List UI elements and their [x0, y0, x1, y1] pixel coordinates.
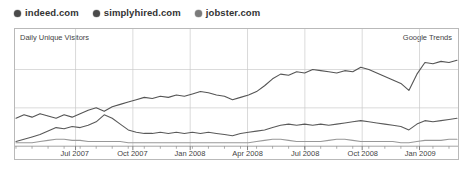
legend-item-simplyhired[interactable]: simplyhired.com: [93, 8, 181, 18]
chart-legend: indeed.com simplyhired.com jobster.com: [14, 5, 260, 21]
legend-label-simplyhired: simplyhired.com: [104, 8, 181, 18]
legend-label-indeed: indeed.com: [25, 8, 79, 18]
filled-circle-marker-icon: [195, 10, 202, 17]
x-axis-tick-label: Jan 2008: [175, 150, 206, 158]
plot-area: [15, 29, 458, 159]
legend-item-indeed[interactable]: indeed.com: [14, 8, 79, 18]
x-axis-tick-label: Jan 2009: [405, 150, 436, 158]
filled-circle-marker-icon: [93, 10, 100, 17]
chart-screenshot: indeed.com simplyhired.com jobster.com D…: [0, 0, 474, 178]
x-axis-tick-label: Oct 2007: [117, 150, 147, 158]
legend-label-jobster: jobster.com: [206, 8, 260, 18]
chart-svg: [15, 29, 458, 159]
x-axis-labels: Jul 2007Oct 2007Jan 2008Apr 2008Jul 2008…: [14, 150, 459, 164]
x-axis-tick-label: Jul 2008: [291, 150, 319, 158]
chart-frame: Daily Unique Visitors Google Trends: [14, 28, 459, 160]
x-axis-tick-label: Apr 2008: [232, 150, 262, 158]
filled-circle-marker-icon: [14, 10, 21, 17]
x-axis-tick-label: Oct 2008: [348, 150, 378, 158]
x-axis-tick-label: Jul 2007: [61, 150, 89, 158]
legend-item-jobster[interactable]: jobster.com: [195, 8, 260, 18]
